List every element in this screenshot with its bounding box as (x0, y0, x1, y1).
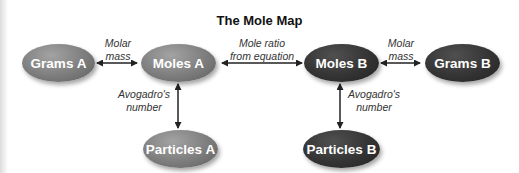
edge-label-line1: Mole ratio (222, 37, 302, 50)
node-moles-a: Moles A (141, 44, 216, 82)
edge-label-grams-a-moles-a: Molar mass (100, 37, 136, 63)
node-moles-a-label: Moles A (153, 56, 204, 71)
node-grams-b: Grams B (425, 44, 500, 82)
arrows-layer (0, 0, 519, 173)
edge-label-line2: from equation (222, 50, 302, 63)
node-grams-a: Grams A (22, 44, 95, 82)
edge-label-line2: mass (383, 50, 419, 63)
edge-label-line2: mass (100, 50, 136, 63)
edge-label-line1: Avogadro's (344, 88, 404, 101)
node-grams-b-label: Grams B (434, 56, 490, 71)
edge-label-line2: number (344, 101, 404, 114)
node-particles-b: Particles B (303, 130, 380, 168)
node-particles-b-label: Particles B (307, 142, 377, 157)
edge-label-moles-a-moles-b: Mole ratio from equation (222, 37, 302, 63)
node-moles-b: Moles B (304, 44, 379, 82)
node-particles-a-label: Particles A (146, 142, 215, 157)
edge-label-line1: Avogadro's (114, 88, 174, 101)
edge-label-moles-b-grams-b: Molar mass (383, 37, 419, 63)
node-particles-a: Particles A (143, 130, 218, 168)
edge-label-moles-a-particles-a: Avogadro's number (114, 88, 174, 114)
edge-label-line1: Molar (100, 37, 136, 50)
edge-label-line1: Molar (383, 37, 419, 50)
edge-label-moles-b-particles-b: Avogadro's number (344, 88, 404, 114)
node-moles-b-label: Moles B (316, 56, 368, 71)
edge-label-line2: number (114, 101, 174, 114)
node-grams-a-label: Grams A (31, 56, 87, 71)
